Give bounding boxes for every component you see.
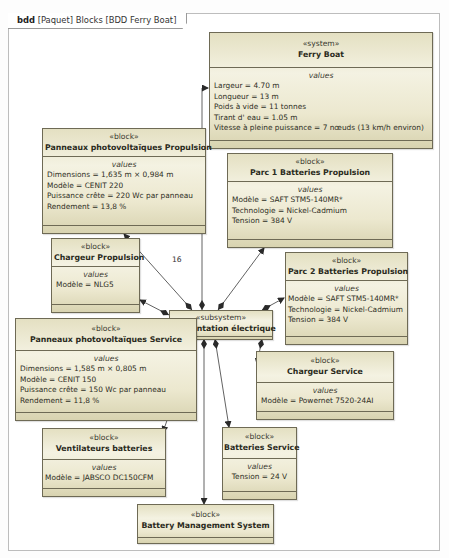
value-line: Technologie = Nickel-Cadmium xyxy=(288,305,405,316)
value-line: Puissance crête = 220 Wc par panneau xyxy=(47,191,201,202)
block-header: «block» Parc 1 Batteries Propulsion xyxy=(228,154,392,182)
block-chargeur-propulsion[interactable]: «block» Chargeur Propulsion values Modèl… xyxy=(51,238,140,313)
empty-compartment xyxy=(43,488,165,496)
block-batteries-service[interactable]: «block» Batteries Service values Tension… xyxy=(222,427,297,500)
block-panneaux-service[interactable]: «block» Panneaux photovoltaïques Service… xyxy=(15,318,197,421)
block-header: «block» Panneaux photovoltaïques Propuls… xyxy=(43,129,205,157)
value-line: Dimensions = 1,635 m × 0,984 m xyxy=(47,170,201,181)
block-header: «block» Ventilateurs batteries xyxy=(43,429,165,460)
empty-compartment xyxy=(257,411,393,419)
compartment-title: values xyxy=(288,283,405,294)
values-compartment: values Tension = 24 V xyxy=(223,459,296,485)
stereotype: «block» xyxy=(45,132,203,142)
value-line: Puissance crête = 150 Wc par panneau xyxy=(20,385,192,396)
value-line: Tension = 384 V xyxy=(288,315,405,326)
block-chargeur-service[interactable]: «block» Chargeur Service values Modèle =… xyxy=(256,351,394,420)
empty-compartment xyxy=(286,336,407,344)
value-line: Tension = 384 V xyxy=(232,216,388,227)
empty-compartment xyxy=(52,304,139,312)
values-compartment: values Modèle = SAFT STM5-140MR* Technol… xyxy=(286,281,407,328)
value-line: Vitesse à pleine puissance = 7 nœuds (13… xyxy=(214,123,428,134)
compartment-title: values xyxy=(20,353,192,364)
empty-compartment xyxy=(223,491,296,499)
block-header: «system» Ferry Boat xyxy=(210,33,432,68)
block-parc2-batteries-propulsion[interactable]: «block» Parc 2 Batteries Propulsion valu… xyxy=(285,252,408,345)
block-name: Batteries Service xyxy=(224,442,295,453)
block-name: Chargeur Service xyxy=(259,366,391,377)
block-name: Chargeur Propulsion xyxy=(54,252,137,263)
block-battery-management-system[interactable]: «block» Battery Management System xyxy=(137,504,274,544)
values-compartment: values Modèle = JABSCO DC150CFM xyxy=(43,460,165,486)
compartment-title: values xyxy=(45,462,163,473)
block-name: Parc 1 Batteries Propulsion xyxy=(230,167,390,178)
stereotype: «block» xyxy=(288,256,405,266)
block-panneaux-propulsion[interactable]: «block» Panneaux photovoltaïques Propuls… xyxy=(42,128,206,234)
block-name: Parc 2 Batteries Propulsion xyxy=(288,266,405,277)
empty-compartment xyxy=(43,225,205,233)
diagram-frame-tab: bdd [Paquet] Blocks [BDD Ferry Boat] xyxy=(8,13,187,29)
compartment-title: values xyxy=(261,385,389,396)
value-line: Modèle = SAFT STM5-140MR* xyxy=(288,294,405,305)
values-compartment: values Modèle = NLG5 xyxy=(52,267,139,293)
block-name: Panneaux photovoltaïques Propulsion xyxy=(45,142,203,153)
block-ventilateurs-batteries[interactable]: «block» Ventilateurs batteries values Mo… xyxy=(42,428,166,497)
value-line: Rendement = 11,8 % xyxy=(20,396,192,407)
stereotype: «block» xyxy=(224,432,295,442)
block-header: «block» Chargeur Propulsion xyxy=(52,239,139,267)
empty-compartment xyxy=(16,412,196,420)
stereotype: «block» xyxy=(45,433,163,443)
empty-compartment xyxy=(228,239,392,247)
value-line: Technologie = Nickel-Cadmium xyxy=(232,206,388,217)
compartment-title: values xyxy=(232,184,388,195)
compartment-title: values xyxy=(214,70,428,81)
value-line: Poids à vide = 11 tonnes xyxy=(214,102,428,113)
compartment-title: values xyxy=(47,159,201,170)
value-line: Modèle = CENIT 220 xyxy=(47,181,201,192)
values-compartment: values Dimensions = 1,585 m × 0,805 m Mo… xyxy=(16,351,196,408)
value-line: Modèle = NLG5 xyxy=(56,280,135,291)
block-name: Panneaux photovoltaïques Service xyxy=(18,334,194,345)
value-line: Modèle = CENIT 150 xyxy=(20,375,192,386)
block-name: Ventilateurs batteries xyxy=(45,443,163,454)
block-header: «block» Panneaux photovoltaïques Service xyxy=(16,319,196,351)
stereotype: «block» xyxy=(259,356,391,366)
stereotype: «block» xyxy=(54,242,137,252)
stereotype: «system» xyxy=(212,39,430,49)
value-line: Modèle = JABSCO DC150CFM xyxy=(45,473,163,484)
values-compartment: values Dimensions = 1,635 m × 0,984 m Mo… xyxy=(43,157,205,214)
value-line: Modèle = SAFT STM5-140MR* xyxy=(232,195,388,206)
values-compartment: values Modèle = Powernet 7520-24AI xyxy=(257,383,393,409)
block-header: «block» Parc 2 Batteries Propulsion xyxy=(286,253,407,281)
diagram-kind: bdd xyxy=(17,15,35,25)
multiplicity-panneaux-propulsion: 16 xyxy=(172,255,182,264)
stereotype: «block» xyxy=(140,510,271,520)
block-name: Battery Management System xyxy=(140,520,271,531)
compartment-title: values xyxy=(56,269,135,280)
block-header: «block» Chargeur Service xyxy=(257,352,393,383)
value-line: Tirant d' eau = 1.05 m xyxy=(214,113,428,124)
value-line: Tension = 24 V xyxy=(225,472,294,483)
stereotype: «block» xyxy=(230,157,390,167)
values-compartment: values Modèle = SAFT STM5-140MR* Technol… xyxy=(228,182,392,229)
block-header: «block» Batteries Service xyxy=(223,428,296,459)
values-compartment: values Largeur = 4.70 m Longueur = 13 m … xyxy=(210,68,432,136)
compartment-title: values xyxy=(225,461,294,472)
block-ferry-boat[interactable]: «system» Ferry Boat values Largeur = 4.7… xyxy=(209,32,433,149)
value-line: Largeur = 4.70 m xyxy=(214,81,428,92)
value-line: Modèle = Powernet 7520-24AI xyxy=(261,396,389,407)
stereotype: «block» xyxy=(18,324,194,334)
value-line: Longueur = 13 m xyxy=(214,92,428,103)
empty-compartment xyxy=(210,140,432,148)
value-line: Dimensions = 1,585 m × 0,805 m xyxy=(20,364,192,375)
block-name: Ferry Boat xyxy=(212,49,430,60)
diagram-title: [Paquet] Blocks [BDD Ferry Boat] xyxy=(38,15,177,25)
value-line: Rendement = 13,8 % xyxy=(47,202,201,213)
block-parc1-batteries-propulsion[interactable]: «block» Parc 1 Batteries Propulsion valu… xyxy=(227,153,393,248)
block-header: «block» Battery Management System xyxy=(138,505,273,538)
